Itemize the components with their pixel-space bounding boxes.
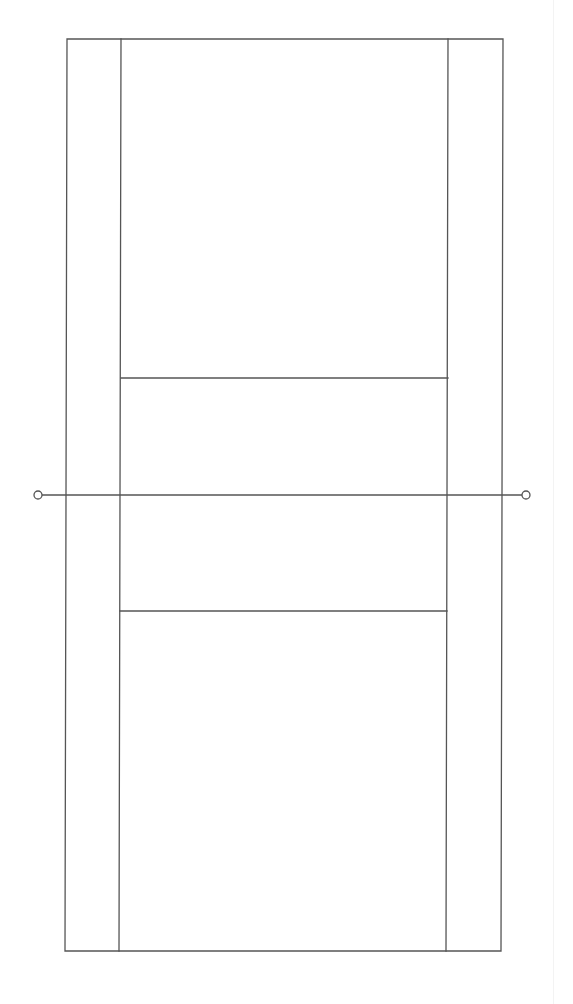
tennis-court-diagram [0, 0, 573, 1004]
left-net-post-icon [34, 491, 42, 499]
right-net-post-icon [522, 491, 530, 499]
